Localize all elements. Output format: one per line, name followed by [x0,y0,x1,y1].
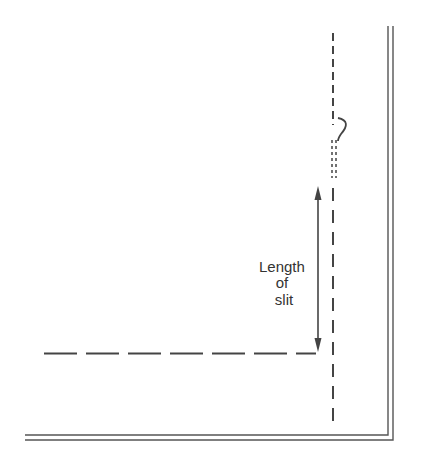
squiggle-mark-icon [338,118,346,141]
slit-diagram: Length of slit [0,0,424,463]
arrow-head-down-icon [315,338,322,352]
label-line-1: Length [259,258,305,275]
label-line-3: slit [275,291,294,308]
slit-length-arrow [315,186,322,352]
border-frame [25,26,393,440]
label-line-2: of [276,274,289,291]
border-outer-line [25,26,393,440]
slit-length-label: Length of slit [259,258,309,308]
vertical-dashed-line [332,33,336,425]
arrow-head-up-icon [315,186,322,200]
